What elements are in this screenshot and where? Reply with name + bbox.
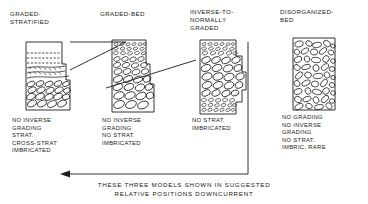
- column-description-graded-stratified: NO INVERSE GRADING STRAT. CROSS-STRAT IM…: [12, 117, 92, 155]
- column-description-inverse-to-normally-graded: NO STRAT. IMBRICATED: [192, 117, 272, 132]
- disorganized-bed-log: [288, 36, 342, 112]
- column-graded-bed: GRADED-BED: [100, 10, 180, 18]
- column-disorganized-bed: DISORGANIZED- BED: [280, 8, 364, 24]
- column-title-inverse-to-normally-graded: INVERSE-TO- NORMALLY GRADED: [190, 8, 270, 32]
- column-title-graded-stratified: GRADED- STRATIFIED: [10, 10, 88, 26]
- figure-caption: THESE THREE MODELS SHOWN IN SUGGESTED RE…: [44, 180, 324, 199]
- graded-bed-log: [108, 38, 162, 114]
- inverse-to-normally-graded-log: [196, 38, 256, 116]
- downcurrent-arrow-head: [60, 171, 70, 178]
- column-description-disorganized-bed: NO GRADING NO INVERSE GRADING NO STRAT. …: [282, 114, 366, 152]
- graded-stratified-log: [22, 40, 78, 112]
- column-description-graded-bed: NO INVERSE GRADING NO STRAT. IMBRICATED: [102, 117, 182, 147]
- column-graded-stratified: GRADED- STRATIFIED: [10, 10, 88, 26]
- facies-model-figure: GRADED- STRATIFIED: [0, 0, 368, 204]
- column-title-disorganized-bed: DISORGANIZED- BED: [280, 8, 364, 24]
- column-title-graded-bed: GRADED-BED: [100, 10, 180, 18]
- column-inverse-to-normally-graded: INVERSE-TO- NORMALLY GRADED: [190, 8, 270, 32]
